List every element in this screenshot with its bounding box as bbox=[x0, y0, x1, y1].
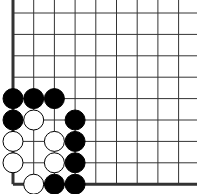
black-stone[interactable] bbox=[65, 153, 85, 173]
black-stone[interactable] bbox=[3, 110, 23, 130]
white-stone[interactable] bbox=[24, 174, 44, 194]
black-stone[interactable] bbox=[3, 89, 23, 109]
black-stone[interactable] bbox=[44, 89, 64, 109]
black-stone[interactable] bbox=[44, 174, 64, 194]
white-stone[interactable] bbox=[3, 153, 23, 173]
black-stone[interactable] bbox=[65, 110, 85, 130]
go-board-grid[interactable] bbox=[0, 0, 197, 194]
black-stone[interactable] bbox=[65, 131, 85, 151]
go-board[interactable] bbox=[0, 0, 197, 194]
black-stone[interactable] bbox=[65, 174, 85, 194]
white-stone[interactable] bbox=[3, 131, 23, 151]
white-stone[interactable] bbox=[44, 131, 64, 151]
black-stone[interactable] bbox=[24, 89, 44, 109]
white-stone[interactable] bbox=[44, 153, 64, 173]
white-stone[interactable] bbox=[24, 110, 44, 130]
